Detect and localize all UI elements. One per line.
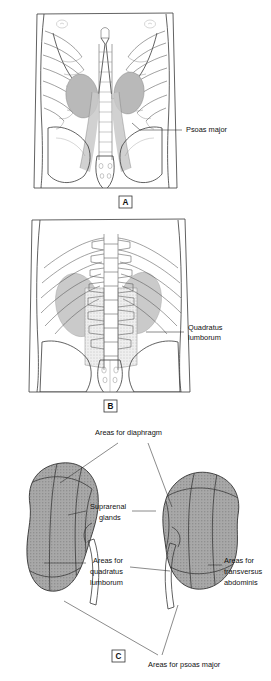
nipple-markers (57, 20, 156, 28)
label-suprarenal-line2: glands (99, 513, 121, 522)
panel-b-contents (37, 220, 182, 398)
label-quad-area-line2: quadratus (90, 567, 123, 576)
leader-psoas-major (132, 123, 182, 130)
vertebral-column-a (99, 44, 112, 160)
label-suprarenal-line1: Suprarenal (90, 502, 127, 511)
body-contour-left (41, 14, 44, 188)
label-quadratus-lumborum-line1: Quadratus (188, 323, 223, 332)
panel-a-anterior-view: Psoas major A (0, 0, 271, 210)
label-areas-for-diaphragm: Areas for diaphragm (95, 428, 162, 437)
panel-b-posterior-view: Quadratus lumborum B (0, 210, 271, 415)
iliac-wing-left-b (40, 341, 91, 392)
panel-letter-a: A (123, 198, 129, 207)
leader-diaphragm-right (148, 443, 172, 507)
kidney-left-c (27, 463, 98, 591)
label-areas-for-psoas-major: Areas for psoas major (148, 660, 221, 669)
panel-c-kidney-surfaces: Areas for diaphragm Suprarenal glands Ar… (0, 415, 271, 681)
torso-frame-b (29, 219, 190, 392)
sacral-foramina-a (99, 163, 112, 178)
label-quad-area-line1: Areas for (93, 556, 124, 565)
anatomy-figure: Psoas major A (0, 0, 271, 681)
panel-letter-b: B (108, 402, 114, 411)
label-transversus-line1: Areas for (224, 556, 255, 565)
leader-quad-right (130, 567, 170, 571)
leader-psoas-left (64, 601, 158, 655)
label-transversus-line2: transversus (224, 567, 263, 576)
label-quadratus-lumborum-line2: lumborum (188, 333, 221, 342)
xiphoid-process (101, 28, 109, 39)
body-contour-right-b (178, 220, 181, 392)
panel-a-contents (41, 14, 170, 190)
body-contour-left-b (37, 220, 40, 392)
panel-letter-c: C (116, 652, 122, 661)
sacrum-a (96, 156, 114, 190)
label-psoas-major: Psoas major (186, 125, 228, 134)
leader-psoas-right (162, 605, 178, 655)
label-quad-area-line3: lumborum (90, 578, 123, 587)
label-transversus-line3: abdominis (224, 578, 258, 587)
body-contour-right (166, 14, 169, 188)
